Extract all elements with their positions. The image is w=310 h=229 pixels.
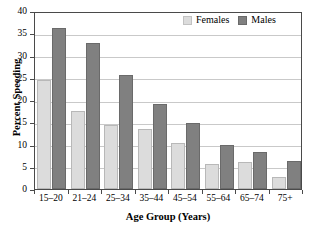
bar-group [102,13,136,189]
bar-females-5 [205,164,219,189]
plot-frame [34,12,302,190]
bar-males-7 [287,161,301,189]
bar-females-3 [138,129,152,189]
legend-swatch-icon [183,16,192,25]
legend-swatch-icon [238,16,247,25]
bar-group [35,13,69,189]
bar-males-5 [220,145,234,189]
bar-males-4 [186,123,200,189]
x-axis-tick-label: 55–64 [202,194,236,204]
plot-area [35,13,301,189]
x-axis-tick-label: 25–34 [101,194,135,204]
bar-group [203,13,237,189]
bar-males-1 [86,43,100,189]
x-axis-tick [302,190,303,194]
bar-group [69,13,103,189]
x-axis-tick-label: 21–24 [68,194,102,204]
bar-females-1 [71,111,85,189]
bar-group [236,13,270,189]
bar-males-0 [52,28,66,189]
y-axis-tick-label: 5 [0,163,27,173]
y-axis-tick-label: 30 [0,52,27,62]
x-axis-tick-label: 15–20 [34,194,68,204]
x-axis-tick-label: 75+ [269,194,303,204]
x-axis-tick-label: 45–54 [168,194,202,204]
bar-males-3 [153,104,167,189]
y-axis-tick-label: 40 [0,7,27,17]
legend-entry-males: Males [238,15,275,25]
bar-females-2 [104,125,118,189]
bar-group [136,13,170,189]
bar-females-0 [37,80,51,189]
chart-legend: FemalesMales [181,14,278,26]
y-axis-tick-label: 25 [0,74,27,84]
bar-chart: Percent Speeding 0510152025303540 Age Gr… [0,0,310,229]
x-axis-title: Age Group (Years) [34,211,302,222]
y-axis-tick-label: 20 [0,96,27,106]
bar-group [270,13,304,189]
bar-females-6 [238,162,252,189]
y-axis-tick-label: 0 [0,185,27,195]
x-axis-tick-label: 35–44 [135,194,169,204]
y-axis-tick-label: 35 [0,29,27,39]
legend-label: Males [251,15,275,25]
bar-males-2 [119,75,133,189]
bar-females-7 [272,177,286,189]
legend-label: Females [196,15,229,25]
legend-entry-females: Females [183,15,229,25]
x-axis-tick-label: 65–74 [235,194,269,204]
y-axis-tick-label: 15 [0,118,27,128]
bar-males-6 [253,152,267,189]
bar-group [169,13,203,189]
bar-females-4 [171,143,185,189]
y-axis-tick-label: 10 [0,141,27,151]
